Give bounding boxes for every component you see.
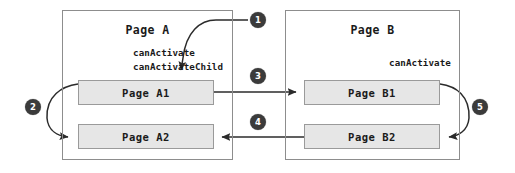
node-page-b2[interactable]: Page B2 (304, 124, 440, 149)
node-page-b2-label: Page B2 (348, 131, 396, 143)
page-a-guard-can-activate: canActivate (133, 47, 195, 58)
page-a-title: Page A (63, 23, 232, 37)
node-page-b1[interactable]: Page B1 (304, 80, 440, 105)
page-b-title: Page B (286, 23, 459, 37)
node-page-a2-label: Page A2 (122, 131, 170, 143)
node-page-a1-label: Page A1 (122, 87, 170, 99)
step-badge-1: 1 (250, 12, 266, 28)
node-page-b1-label: Page B1 (348, 87, 396, 99)
node-page-a2[interactable]: Page A2 (78, 124, 214, 149)
diagram-canvas: Page A canActivate canActivateChild Page… (0, 0, 515, 173)
step-badge-3: 3 (250, 68, 266, 84)
page-a-guard-can-activate-child: canActivateChild (133, 61, 223, 72)
step-badge-5: 5 (472, 99, 488, 115)
page-b-guard-can-activate: canActivate (389, 57, 451, 68)
step-badge-4: 4 (250, 114, 266, 130)
step-badge-2: 2 (25, 99, 41, 115)
node-page-a1[interactable]: Page A1 (78, 80, 214, 105)
